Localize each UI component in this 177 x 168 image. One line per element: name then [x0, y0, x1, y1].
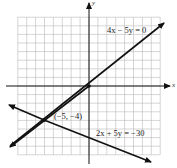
coordinate-plane	[0, 0, 177, 168]
origin-point	[87, 84, 91, 88]
line2-label: 2x + 5y = −30	[96, 129, 144, 138]
x-axis-label: x	[172, 82, 175, 89]
y-axis-label: y	[92, 0, 95, 7]
line1-label: 4x − 5y = 0	[107, 26, 146, 35]
intersection-point	[42, 118, 46, 122]
intersection-label: (−5, −4)	[54, 112, 82, 121]
